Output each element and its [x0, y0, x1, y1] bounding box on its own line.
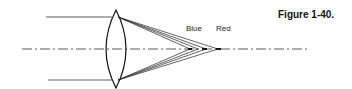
figure-caption: Figure 1-40.: [278, 9, 334, 20]
red-focus-label: Red: [216, 24, 231, 33]
blue-focus-label: Blue: [186, 24, 202, 33]
figure-container: Blue Red Figure 1-40.: [0, 0, 352, 89]
refracted-rays-top: [118, 17, 218, 49]
refracted-rays-bottom: [118, 49, 218, 80]
